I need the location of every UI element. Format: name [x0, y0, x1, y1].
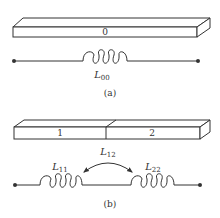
terminal-dot-right — [196, 59, 200, 63]
bar-segment-label-2: 2 — [149, 128, 155, 138]
terminal-dot-left — [13, 183, 17, 187]
label-l12: L12 — [99, 146, 116, 159]
caption-b: (b) — [104, 199, 117, 209]
circuit-a — [14, 50, 198, 64]
bar-segment-label-0: 0 — [102, 27, 108, 37]
inductor-coil-l11 — [40, 174, 82, 188]
panel-a: 0 L00 (a) — [12, 18, 210, 98]
mutual-inductance-arrow — [84, 163, 132, 172]
circuit-b — [15, 163, 200, 187]
figure: 0 L00 (a) 1 2 L11 — [0, 0, 220, 218]
bar-segment-label-1: 1 — [57, 128, 63, 138]
diagram-svg: 0 L00 (a) 1 2 L11 — [0, 0, 220, 218]
inductor-coil-l00 — [83, 50, 127, 64]
bar-0 — [13, 18, 210, 37]
panel-b: 1 2 L11 L12 L22 (b) — [13, 120, 210, 209]
bar-1-2 — [14, 120, 210, 139]
label-l00: L00 — [93, 69, 110, 82]
terminal-dot-right — [198, 183, 202, 187]
label-l11: L11 — [51, 161, 68, 174]
inductor-coil-l22 — [131, 174, 174, 188]
caption-a: (a) — [104, 88, 116, 98]
terminal-dot-left — [12, 59, 16, 63]
label-l22: L22 — [144, 161, 161, 174]
